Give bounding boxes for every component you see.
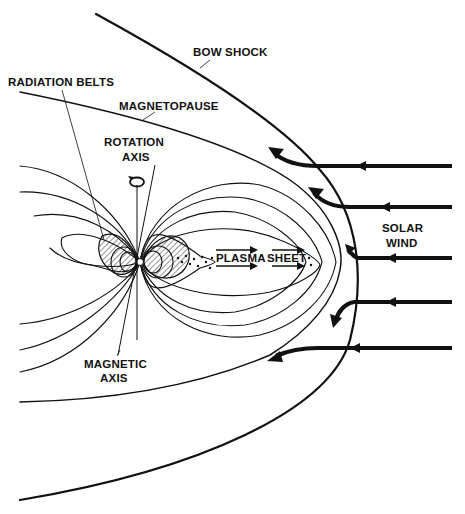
solar-wind-label-2: WIND — [386, 237, 417, 249]
magnetic-axis-label-2: AXIS — [100, 372, 128, 384]
magnetosphere-diagram: BOW SHOCK RADIATION BELTS MAGNETOPAUSE R… — [0, 0, 465, 514]
rotation-arrow-icon — [128, 176, 144, 187]
radiation-belts-label: RADIATION BELTS — [8, 76, 114, 88]
solar-wind-arrow-5 — [276, 348, 452, 356]
plasma-sheet-label-1: PLASMA — [216, 252, 266, 264]
bow-shock-label: BOW SHOCK — [193, 46, 268, 58]
magnetic-axis-label-1: MAGNETIC — [84, 358, 147, 370]
rotation-axis-label-2: AXIS — [122, 151, 150, 163]
solar-wind-arrow-3 — [348, 249, 452, 258]
solar-wind-label-1: SOLAR — [382, 222, 424, 234]
magnetopause-label: MAGNETOPAUSE — [119, 100, 219, 112]
radiation-belts-leader — [62, 90, 104, 240]
solar-wind-arrow-2 — [314, 193, 452, 207]
magnetopause-leader — [143, 112, 155, 120]
bow-shock-leader — [200, 60, 210, 68]
rotation-axis-label-1: ROTATION — [104, 136, 164, 148]
plasma-sheet-label-2: SHEET — [267, 252, 306, 264]
